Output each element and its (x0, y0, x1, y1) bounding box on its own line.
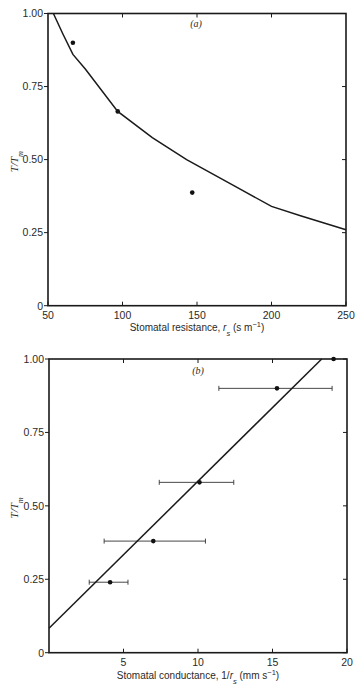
x-tick-label: 10 (192, 656, 204, 668)
figure: 00.250.500.751.0050100150200250(a)Stomat… (0, 0, 363, 695)
x-tick-label: 5 (121, 656, 127, 668)
x-axis-label: Stomatal resistance, rs (s m−1) (130, 320, 265, 338)
fitted-line (53, 14, 346, 230)
data-point (151, 539, 156, 544)
x-tick-label: 150 (188, 309, 206, 321)
chart-panel-b: 00.250.500.751.005101520(b)Stomatal cond… (8, 353, 353, 686)
y-tick-label: 0.50 (24, 500, 45, 512)
panel-label: (b) (192, 365, 204, 377)
data-point (71, 40, 76, 45)
y-tick-label: 0.25 (24, 573, 45, 585)
fitted-line (49, 359, 322, 628)
data-point (190, 190, 195, 195)
data-point (108, 580, 113, 585)
y-tick-label: 0.25 (23, 226, 44, 238)
y-tick-label: 0.50 (23, 153, 44, 165)
y-tick-label: 1.00 (24, 353, 45, 365)
y-tick-label: 0.75 (24, 426, 45, 438)
data-point (275, 386, 280, 391)
plot-frame (48, 14, 346, 306)
x-axis-label: Stomatal conductance, 1/rs (mm s−1) (117, 668, 279, 686)
chart-panel-a: 00.250.500.751.0050100150200250(a)Stomat… (8, 7, 355, 337)
panel-label: (a) (190, 18, 202, 30)
plot-frame (49, 359, 347, 653)
x-tick-label: 15 (267, 656, 279, 668)
y-axis-label: T/Tm (8, 497, 24, 518)
data-point (331, 357, 336, 362)
x-tick-label: 50 (42, 309, 54, 321)
y-tick-label: 1.00 (23, 7, 44, 19)
y-tick-label: 0.75 (23, 80, 44, 92)
x-tick-label: 250 (337, 309, 355, 321)
x-tick-label: 100 (114, 309, 132, 321)
y-tick-label: 0 (38, 647, 44, 659)
x-tick-label: 200 (263, 309, 281, 321)
x-tick-label: 20 (341, 656, 353, 668)
